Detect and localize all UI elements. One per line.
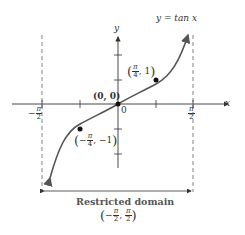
function-label: y = tan x: [156, 13, 197, 23]
origin-point-label: (0, 0): [93, 91, 120, 101]
domain-title: Restricted domain: [76, 196, 174, 207]
origin-label: 0: [121, 105, 127, 115]
x-axis-label: x: [225, 98, 230, 108]
point-origin: [116, 102, 121, 107]
point-neg-pi-over-4: [78, 127, 83, 132]
tan-curve: [50, 35, 188, 178]
point-pi-over-4-label: (π4, 1): [127, 64, 155, 79]
y-axis-label: y: [114, 23, 119, 33]
asymptote-left-label: −π2: [28, 106, 42, 121]
asymptote-right-label: π2: [188, 106, 195, 121]
point-neg-pi-over-4-label: (−π4, −1): [74, 133, 117, 148]
domain-interval: (−π2, π2): [100, 208, 137, 223]
